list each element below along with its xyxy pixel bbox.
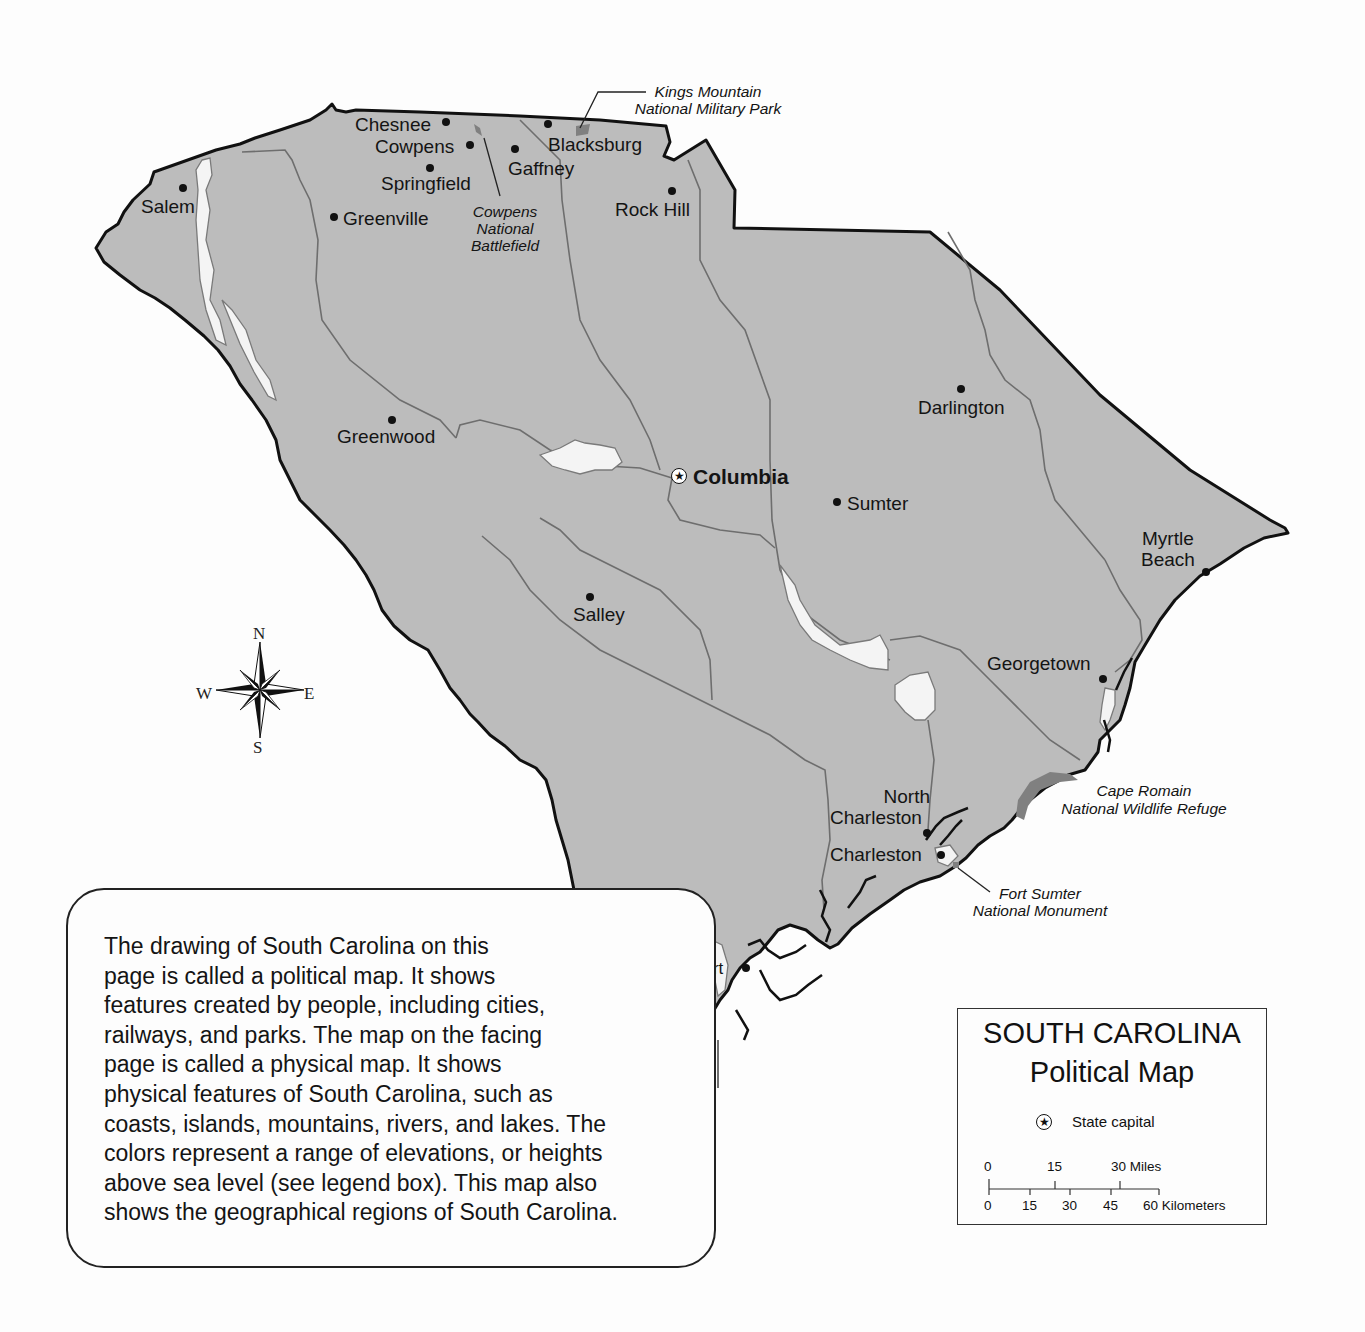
compass-rose (216, 642, 304, 738)
description-line: above sea level (see legend box). This m… (104, 1169, 704, 1199)
city-label-chesnee: Chesnee (355, 114, 431, 135)
compass-west: W (196, 684, 212, 704)
city-label-springfield: Springfield (381, 173, 471, 194)
city-dot-gaffney (511, 145, 519, 153)
city-label-blacksburg: Blacksburg (548, 134, 642, 155)
city-label-myrtle-beach-2: Beach (1141, 549, 1195, 570)
city-dot-blacksburg (544, 120, 552, 128)
park-label-kings-mountain-1: Kings Mountain (618, 83, 798, 100)
city-label-salley: Salley (573, 604, 625, 625)
scale-miles-0: 0 (984, 1160, 992, 1174)
scale-km-30: 30 (1062, 1199, 1077, 1213)
city-dot-chesnee (442, 118, 450, 126)
city-dot-salley (586, 593, 594, 601)
city-dot-myrtle-beach (1202, 568, 1210, 576)
compass-north: N (253, 624, 265, 644)
description-box: The drawing of South Carolina on this pa… (66, 888, 716, 1268)
city-dot-north-charleston (923, 829, 931, 837)
city-dot-charleston (937, 851, 945, 859)
city-label-charleston: Charleston (830, 844, 922, 865)
park-label-cape-romain-2: National Wildlife Refuge (1044, 800, 1244, 817)
description-text: The drawing of South Carolina on this pa… (104, 932, 704, 1228)
description-line: page is called a political map. It shows (104, 962, 704, 992)
city-label-rock-hill: Rock Hill (615, 199, 690, 220)
scale-km-45: 45 (1103, 1199, 1118, 1213)
scale-bar (958, 1009, 1268, 1226)
description-line: page is called a physical map. It shows (104, 1050, 704, 1080)
park-label-cowpens-2: National (455, 220, 555, 237)
legend-box: SOUTH CAROLINA Political Map ★ State cap… (957, 1008, 1267, 1225)
scale-km-60: 60 Kilometers (1143, 1199, 1226, 1213)
city-label-myrtle-beach-1: Myrtle (1142, 528, 1194, 549)
scale-km-15: 15 (1022, 1199, 1037, 1213)
city-dot-greenville (330, 213, 338, 221)
scale-km-0: 0 (984, 1199, 992, 1213)
park-label-cowpens-1: Cowpens (455, 203, 555, 220)
city-dot-salem (179, 184, 187, 192)
park-label-cape-romain-1: Cape Romain (1044, 782, 1244, 799)
city-label-north-charleston-2: Charleston (830, 807, 922, 828)
park-label-kings-mountain-2: National Military Park (618, 100, 798, 117)
description-line: features created by people, including ci… (104, 991, 704, 1021)
city-dot-cowpens (466, 141, 474, 149)
city-dot-rock-hill (668, 187, 676, 195)
city-dot-georgetown (1099, 675, 1107, 683)
city-label-salem: Salem (141, 196, 195, 217)
fort-sumter-area (953, 862, 959, 868)
scale-miles-30: 30 Miles (1111, 1160, 1161, 1174)
city-label-georgetown: Georgetown (987, 653, 1091, 674)
park-label-cowpens-3: Battlefield (455, 237, 555, 254)
city-label-gaffney: Gaffney (508, 158, 574, 179)
city-dot-greenwood (388, 416, 396, 424)
city-dot-beaufort (742, 964, 750, 972)
city-label-greenville: Greenville (343, 208, 429, 229)
capital-star-icon: ★ (671, 468, 687, 484)
city-label-greenwood: Greenwood (337, 426, 435, 447)
city-label-darlington: Darlington (918, 397, 1005, 418)
description-line: The drawing of South Carolina on this (104, 932, 704, 962)
description-line: physical features of South Carolina, suc… (104, 1080, 704, 1110)
park-label-fort-sumter-1: Fort Sumter (955, 885, 1125, 902)
city-dot-sumter (833, 498, 841, 506)
description-line: railways, and parks. The map on the faci… (104, 1021, 704, 1051)
compass-east: E (304, 684, 314, 704)
description-line: colors represent a range of elevations, … (104, 1139, 704, 1169)
capital-label-columbia: Columbia (693, 466, 789, 487)
description-line: coasts, islands, mountains, rivers, and … (104, 1110, 704, 1140)
description-line: shows the geographical regions of South … (104, 1198, 704, 1228)
city-label-sumter: Sumter (847, 493, 908, 514)
city-label-cowpens: Cowpens (375, 136, 454, 157)
park-label-fort-sumter-2: National Monument (955, 902, 1125, 919)
compass-south: S (253, 738, 262, 758)
city-dot-springfield (426, 164, 434, 172)
scale-miles-15: 15 (1047, 1160, 1062, 1174)
city-label-north-charleston-1: North (830, 786, 930, 807)
city-dot-darlington (957, 385, 965, 393)
